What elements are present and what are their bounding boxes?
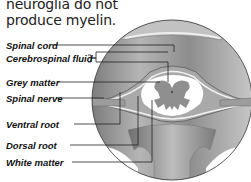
label-spinal-nerve: Spinal nerve bbox=[6, 93, 63, 104]
label-spinal-cord: Spinal cord bbox=[6, 40, 58, 51]
label-grey-matter: Grey matter bbox=[6, 77, 59, 88]
label-white-matter: White matter bbox=[6, 157, 64, 168]
spinal-cord-diagram bbox=[0, 0, 251, 182]
label-dorsal-root: Dorsal root bbox=[6, 140, 57, 151]
cross-section-image bbox=[90, 16, 251, 182]
label-ventral-root: Ventral root bbox=[6, 119, 59, 130]
label-cerebrospinal-fluid: Cerebrospinal fluid bbox=[6, 53, 93, 64]
